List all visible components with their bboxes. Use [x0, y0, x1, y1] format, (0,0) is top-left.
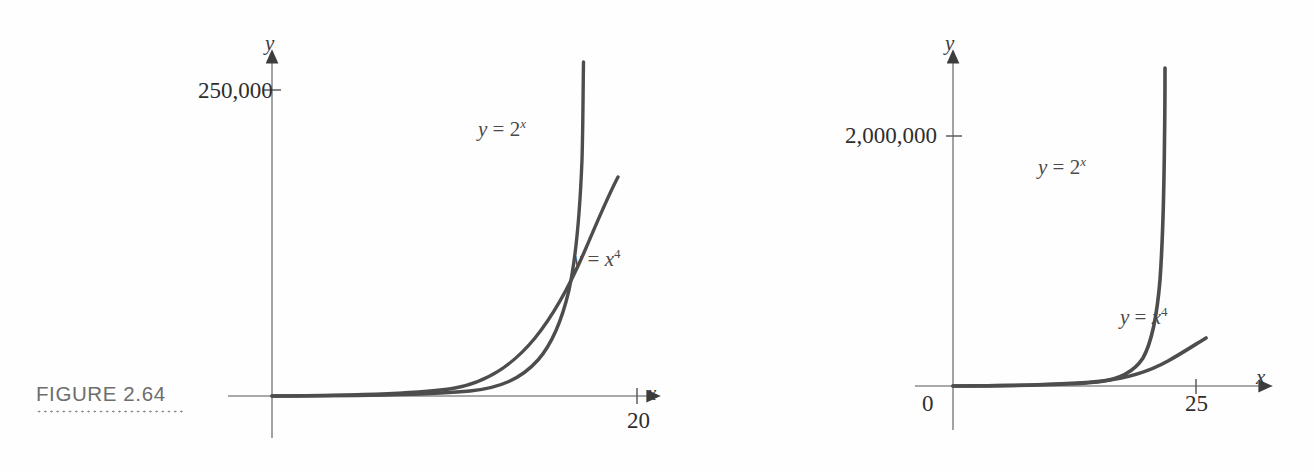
curve-label-base: x	[1152, 305, 1161, 329]
curve-label-equals: =	[582, 247, 604, 271]
curve-label-exponent: 4	[614, 246, 621, 261]
y-tick-label-250000: 250,000	[198, 79, 273, 102]
curve-label-base: x	[605, 247, 614, 271]
curve-label-base: 2	[510, 117, 521, 141]
y-axis-label: y	[945, 33, 954, 54]
x-tick-label-25: 25	[1185, 392, 1208, 415]
curve-x-power-4	[272, 177, 618, 396]
curve-label-exponential: y = 2x	[478, 119, 526, 140]
curve-label-base: 2	[1070, 155, 1081, 179]
curve-label-exponential: y = 2x	[1038, 157, 1086, 178]
x-axis-label: x	[1256, 367, 1265, 388]
curve-label-var: y	[1038, 155, 1047, 179]
curve-label-exponent: x	[1080, 154, 1086, 169]
curve-label-power: y = x4	[1120, 307, 1168, 328]
origin-label-0: 0	[922, 392, 934, 415]
y-tick-label-2000000: 2,000,000	[845, 124, 937, 147]
curve-label-equals: =	[1129, 305, 1151, 329]
figure-2-65-plot	[700, 0, 1315, 472]
curve-label-equals: =	[1047, 155, 1069, 179]
caption-text: FIGURE 2.64	[36, 382, 186, 406]
curve-2-power-x	[272, 62, 584, 396]
curve-label-var: y	[1120, 305, 1129, 329]
figure-2-64-caption: FIGURE 2.64	[36, 382, 186, 413]
curve-label-equals: =	[487, 117, 509, 141]
curve-label-exponent: x	[520, 116, 526, 131]
x-tick-label-20: 20	[627, 409, 650, 432]
caption-dotted-rule	[36, 410, 186, 413]
curve-2-power-x	[953, 68, 1165, 386]
figure-2-65-panel: y x 2,000,000 25 0 y = 2x y = x4 FIGURE …	[700, 0, 1315, 472]
curve-label-var: y	[573, 247, 582, 271]
curve-label-exponent: 4	[1161, 304, 1168, 319]
curve-x-power-4	[953, 338, 1206, 386]
figure-page: y x 250,000 20 y = 2x y = x4 FIGURE 2.64	[0, 0, 1315, 472]
y-axis-label: y	[265, 33, 274, 54]
figure-2-64-panel: y x 250,000 20 y = 2x y = x4 FIGURE 2.64	[0, 0, 700, 472]
curve-label-power: y = x4	[573, 249, 621, 270]
x-axis-label: x	[647, 383, 656, 404]
curve-label-var: y	[478, 117, 487, 141]
